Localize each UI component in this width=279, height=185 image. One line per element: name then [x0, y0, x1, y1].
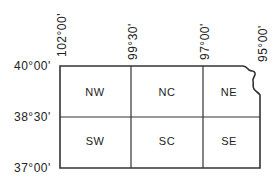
region-nw: NW [85, 86, 104, 98]
region-sw: SW [86, 135, 105, 147]
lat-label-38-30: 38°30' [14, 110, 51, 124]
region-se: SE [221, 135, 237, 147]
kansas-region-map: 102°00' 99°30' 97°00' 95°00' 40°00' 38°3… [0, 0, 279, 185]
region-sc: SC [159, 135, 175, 147]
lon-label-97-00: 97°00' [198, 23, 212, 60]
lon-label-102-00: 102°00' [55, 13, 69, 57]
region-ne: NE [221, 86, 237, 98]
lat-label-40-00: 40°00' [14, 59, 51, 73]
region-nc: NC [159, 86, 176, 98]
lon-label-99-30: 99°30' [126, 23, 140, 60]
lat-label-37-00: 37°00' [14, 161, 51, 175]
lon-label-95-00: 95°00' [256, 25, 270, 62]
